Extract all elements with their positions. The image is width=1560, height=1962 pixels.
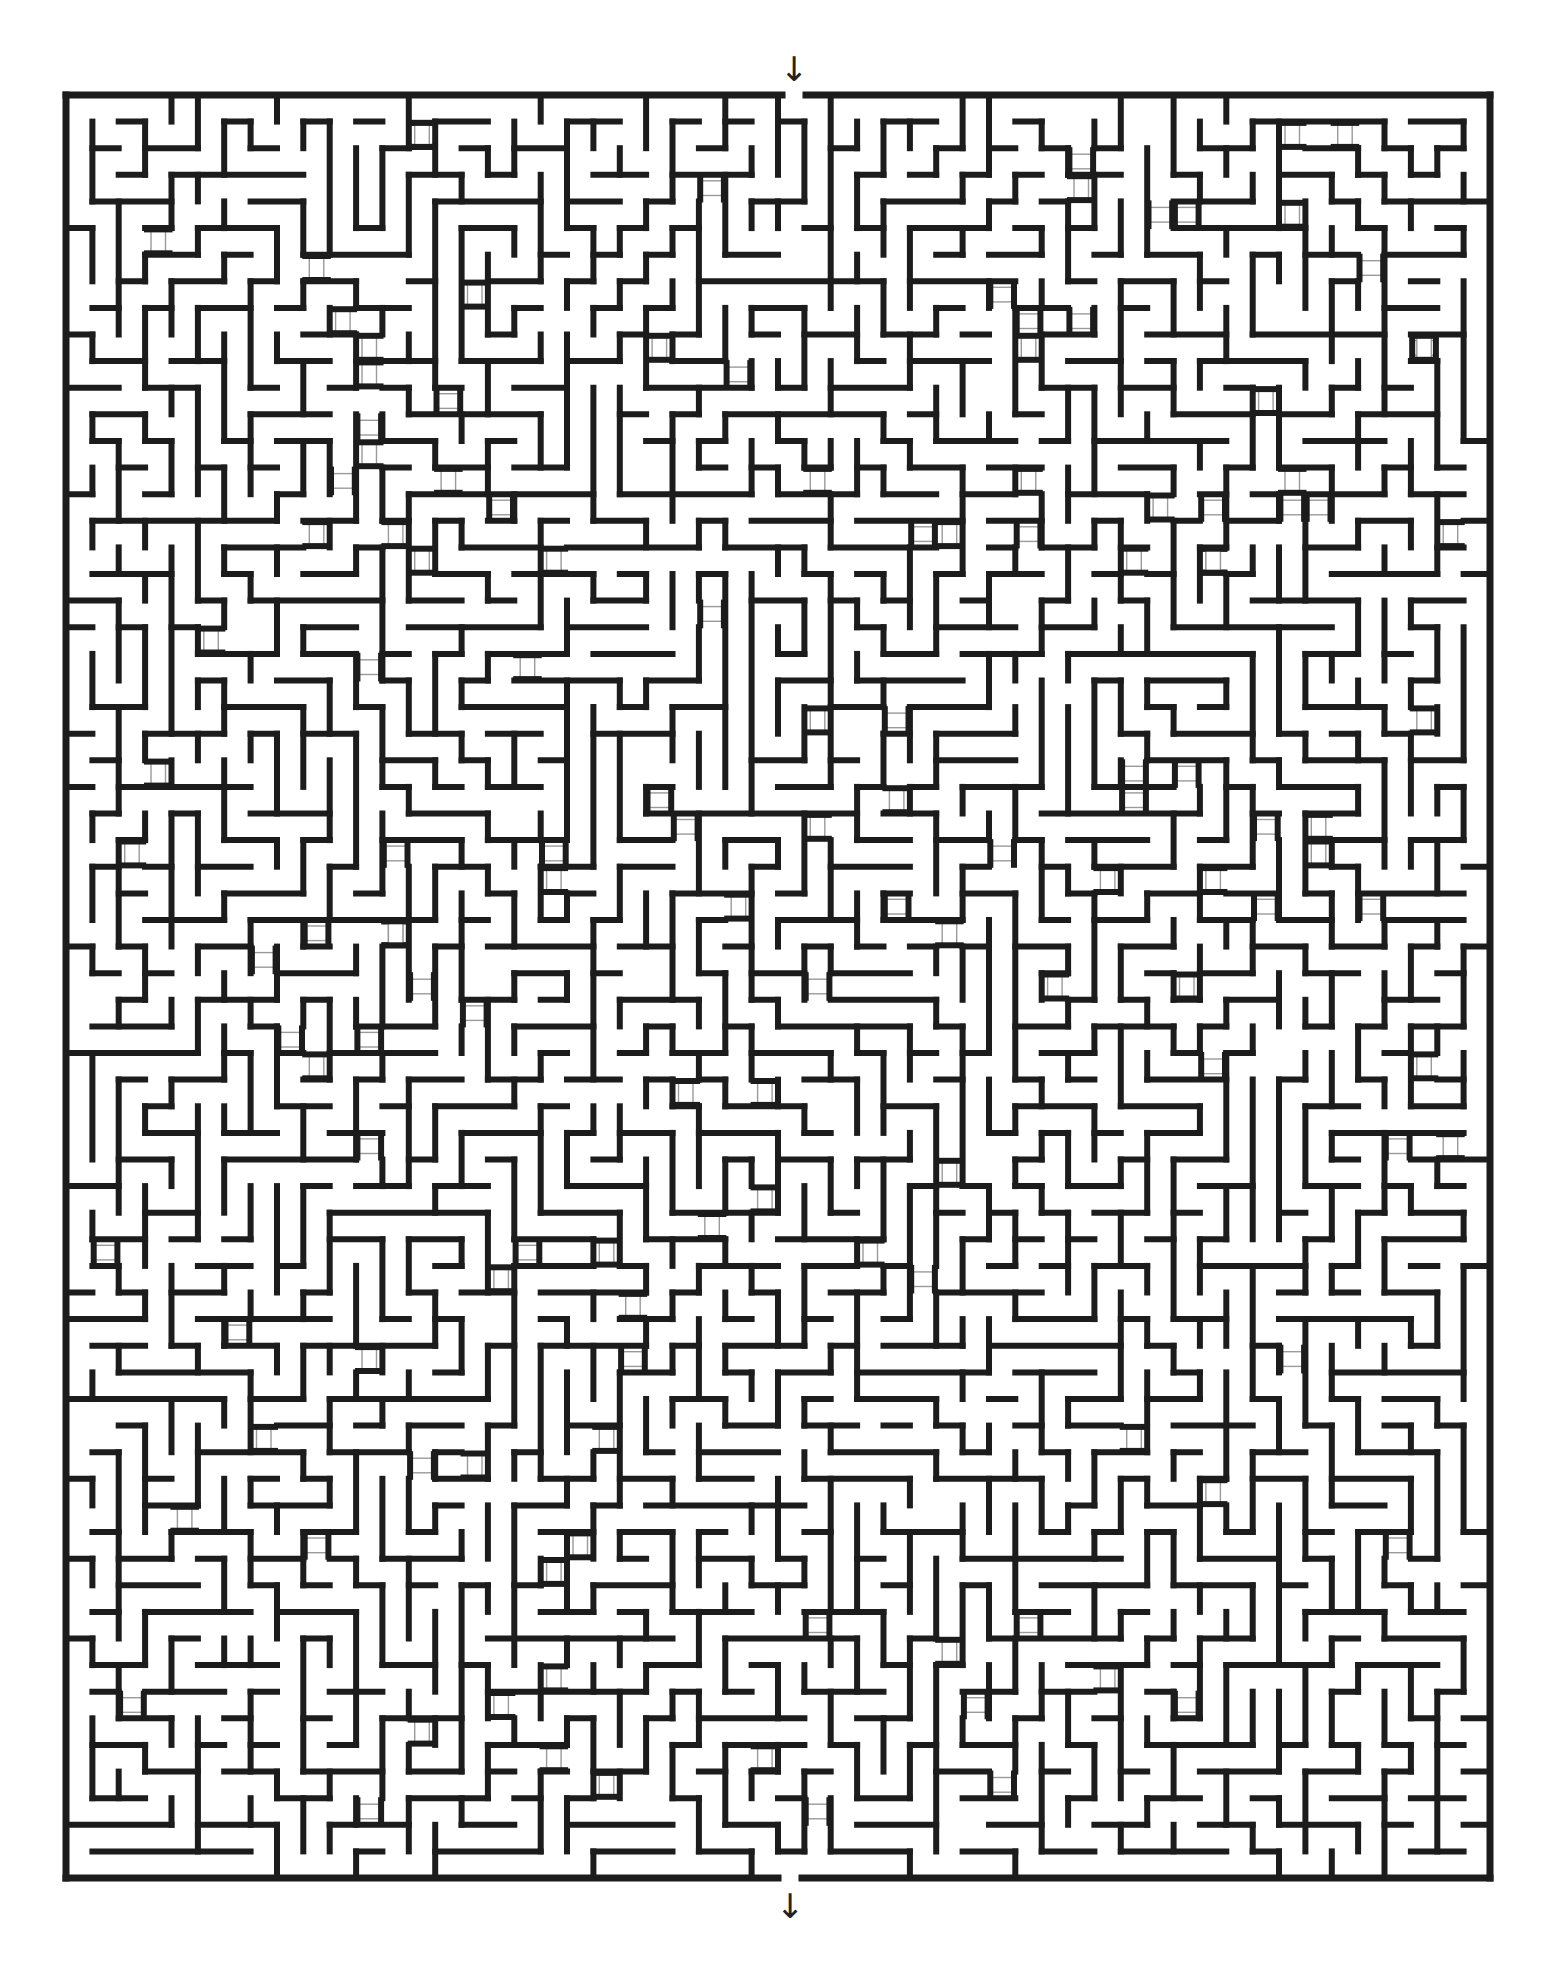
maze-page: Maze puzzle Start Finish ↓ ↓ bbox=[0, 0, 1560, 1962]
maze-walls bbox=[66, 95, 1490, 1878]
exit-arrow-icon: ↓ bbox=[776, 1886, 805, 1926]
entrance-arrow-icon: ↓ bbox=[780, 49, 809, 89]
maze-board[interactable]: ↓ ↓ bbox=[0, 0, 1560, 1962]
